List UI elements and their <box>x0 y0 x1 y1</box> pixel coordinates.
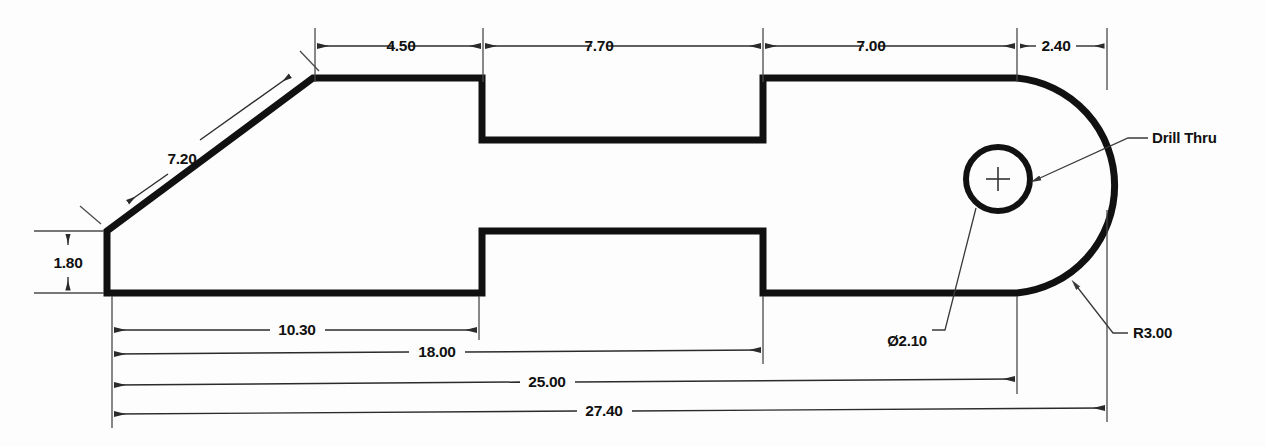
dim-label-1-80: 1.80 <box>54 254 83 271</box>
annotation-label-radius: R3.00 <box>1133 324 1172 341</box>
dim-line-18-00-right <box>465 350 760 352</box>
dim-label-7-20: 7.20 <box>168 150 197 167</box>
annotation-drill-thru: Drill Thru <box>1040 129 1217 178</box>
leader-line-radius <box>1078 288 1128 333</box>
dimension-7-00: 7.00 <box>766 37 1014 54</box>
dim-label-2-40: 2.40 <box>1042 37 1071 54</box>
dimension-1-80: 1.80 <box>34 231 104 293</box>
annotation-diameter: Ø2.10 <box>887 208 976 349</box>
leader-line-diameter <box>932 208 976 330</box>
dimension-4-50: 4.50 <box>318 37 480 54</box>
dimension-10-30: 10.30 <box>115 321 476 338</box>
dim-line-25-00-left <box>115 382 520 385</box>
dim-label-7-70: 7.70 <box>585 37 614 54</box>
dim-line-18-00-left <box>115 352 409 354</box>
dim-label-18-00: 18.00 <box>418 343 455 360</box>
dim-label-7-00: 7.00 <box>857 37 886 54</box>
dimension-7-20: 7.20 <box>80 51 319 224</box>
dim-label-27-40: 27.40 <box>585 402 622 419</box>
ext-line-diag-a <box>80 206 101 224</box>
dim-line-25-00-right <box>575 379 1014 382</box>
dim-label-10-30: 10.30 <box>278 321 315 338</box>
annotation-label-drill-thru: Drill Thru <box>1152 129 1217 146</box>
annotation-radius: R3.00 <box>1078 288 1172 341</box>
dim-label-4-50: 4.50 <box>387 37 416 54</box>
annotation-label-diameter: Ø2.10 <box>887 332 927 349</box>
dim-line-27-40-left <box>115 411 577 414</box>
ext-line-diag-b <box>300 51 319 71</box>
technical-drawing-canvas: 4.50 7.70 7.00 2.40 7.20 <box>0 0 1266 446</box>
part-outline-path <box>107 78 1115 293</box>
part-drawing-svg: 4.50 7.70 7.00 2.40 7.20 <box>0 0 1266 446</box>
dimension-25-00: 25.00 <box>115 373 1014 390</box>
dim-label-25-00: 25.00 <box>528 373 565 390</box>
dimension-2-40: 2.40 <box>1020 37 1104 54</box>
dimension-18-00: 18.00 <box>115 343 760 360</box>
dim-line-27-40-right <box>632 408 1104 411</box>
dimension-27-40: 27.40 <box>115 402 1104 419</box>
leader-line-drill-thru <box>1040 138 1148 178</box>
dimension-7-70: 7.70 <box>486 37 760 54</box>
